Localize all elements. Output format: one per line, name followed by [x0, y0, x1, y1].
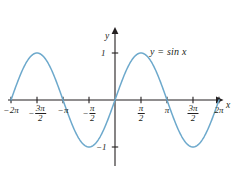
x-tick-label-neg-pi: −π [57, 105, 68, 115]
tick-minus-sign: − [28, 109, 35, 118]
tick-minus-sign: − [82, 109, 89, 118]
x-tick-label-pi: π [165, 105, 170, 115]
fraction-denominator: 2 [35, 114, 46, 123]
x-tick-label-neg-pi-over-2: −π2 [82, 104, 95, 124]
y-axis-arrowhead [112, 27, 119, 34]
equation-annotation: y = sin x [150, 47, 187, 57]
plot-canvas [0, 0, 236, 174]
y-tick-label-neg-1: −1 [96, 143, 107, 152]
tick-value: 2π [214, 106, 223, 115]
tick-minus-sign: − [57, 106, 64, 115]
x-axis-label: x [226, 101, 230, 111]
x-tick-label-3pi-over-2: 3π2 [187, 104, 198, 124]
tick-fraction: π2 [89, 104, 96, 124]
tick-value: π [165, 106, 170, 115]
fraction-denominator: 2 [138, 114, 145, 123]
tick-value: 2π [10, 106, 19, 115]
fraction-denominator: 2 [187, 114, 198, 123]
x-tick-label-pi-over-2: π2 [138, 104, 145, 124]
fraction-denominator: 2 [89, 114, 96, 123]
tick-value: π [64, 106, 69, 115]
x-tick-label-2pi: 2π [214, 105, 223, 115]
tick-fraction: π2 [138, 104, 145, 124]
x-tick-label-neg-3pi-over-2: −3π2 [28, 104, 46, 124]
x-axis-arrowhead [216, 97, 224, 104]
y-axis [112, 27, 119, 166]
tick-fraction: 3π2 [187, 104, 198, 124]
tick-minus-sign: − [3, 106, 10, 115]
y-axis-label: y [105, 32, 109, 42]
y-tick-label-1: 1 [101, 49, 106, 58]
tick-fraction: 3π2 [35, 104, 46, 124]
sine-graph-figure: y x 1 −1 y = sin x −2π−3π2−π−π2π2π3π22π [0, 0, 236, 174]
x-tick-label-neg-2pi: −2π [3, 105, 19, 115]
